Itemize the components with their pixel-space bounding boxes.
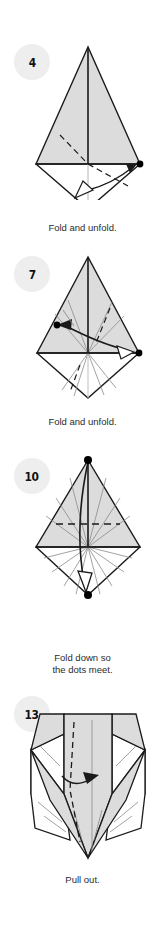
reference-dot — [84, 591, 92, 599]
step-caption-7: Fold and unfold. — [0, 416, 165, 428]
step-panel-10: 10 — [0, 440, 165, 690]
caption-line: Fold and unfold. — [0, 222, 165, 234]
instruction-column: 4 Fold and — [0, 0, 165, 926]
origami-diagram-step-13 — [0, 690, 165, 870]
step-panel-4: 4 Fold and — [0, 0, 165, 240]
step-caption-4: Fold and unfold. — [0, 222, 165, 234]
caption-line: Fold down so — [0, 652, 165, 664]
reference-dot — [84, 456, 92, 464]
caption-line: Pull out. — [0, 874, 165, 886]
origami-diagram-step-7 — [0, 240, 165, 412]
reference-dot — [137, 161, 144, 168]
caption-line: the dots meet. — [0, 664, 165, 676]
step-caption-13: Pull out. — [0, 874, 165, 886]
reference-dot — [54, 322, 61, 329]
caption-line: Fold and unfold. — [0, 416, 165, 428]
step-caption-10: Fold down so the dots meet. — [0, 652, 165, 676]
origami-diagram-step-10 — [0, 440, 165, 650]
origami-diagram-step-4 — [0, 0, 165, 200]
step-panel-7: 7 — [0, 240, 165, 440]
step-panel-13: 13 — [0, 690, 165, 926]
reference-dot — [136, 350, 143, 357]
